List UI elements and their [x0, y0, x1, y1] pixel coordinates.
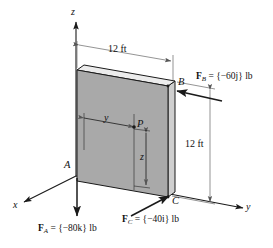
- force-c-value: {−40i} lb: [143, 214, 179, 224]
- point-c-label: C: [172, 196, 179, 207]
- dimension-inner-z-label: z: [140, 152, 144, 162]
- force-c-label: FC = {−40i} lb: [122, 215, 179, 226]
- force-a-label: FA = {−80k} lb: [38, 224, 97, 235]
- axis-y-label: y: [246, 202, 250, 212]
- axis-z-label: z: [71, 7, 75, 17]
- statics-figure: z y x A B C P 12 ft 12 ft y z FA = {−80k…: [0, 0, 273, 248]
- plate-right-face: [168, 81, 175, 197]
- force-b-value: {−60j} lb: [216, 71, 252, 81]
- axis-x: [24, 176, 76, 202]
- force-b-subscript: B: [202, 75, 206, 83]
- force-a-subscript: A: [44, 227, 48, 235]
- axis-x-label: x: [13, 200, 17, 210]
- point-p-label: P: [137, 119, 143, 130]
- force-a-value: {−80k} lb: [58, 223, 97, 233]
- dimension-top-width-label: 12 ft: [108, 44, 127, 54]
- point-b-label: B: [178, 77, 184, 88]
- force-a-equals: =: [50, 223, 55, 233]
- force-b-label: FB = {−60j} lb: [196, 72, 253, 83]
- force-b-arrow: [177, 91, 222, 101]
- force-c-equals: =: [135, 214, 140, 224]
- dimension-inner-y-label: y: [104, 113, 108, 123]
- dimension-right-height-label: 12 ft: [185, 139, 204, 149]
- point-a-label: A: [64, 160, 70, 171]
- force-c-subscript: C: [128, 218, 133, 226]
- force-c-arrow: [131, 196, 169, 216]
- force-b-equals: =: [208, 71, 213, 81]
- point-p-marker: [132, 125, 136, 129]
- plate-front-face: [77, 70, 168, 197]
